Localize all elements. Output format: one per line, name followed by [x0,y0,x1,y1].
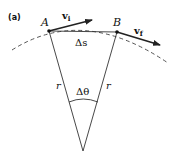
point-b-dot [115,30,119,34]
vi-vector-arrow [49,20,92,31]
radius-right-label: r [106,80,112,91]
chord-label: Δs [75,37,87,48]
panel-label: (a) [8,13,21,22]
circular-motion-diagram: (a) A B vi vf Δs r r Δθ [0,0,170,161]
angle-label: Δθ [76,86,89,97]
circular-path-dashed [12,30,168,63]
point-a-label: A [40,16,49,29]
angle-arc [69,99,98,102]
vi-label: vi [61,10,71,23]
vf-label: vf [133,25,144,38]
point-b-label: B [112,16,121,29]
point-a-dot [47,29,51,33]
radius-left-label: r [56,80,62,91]
